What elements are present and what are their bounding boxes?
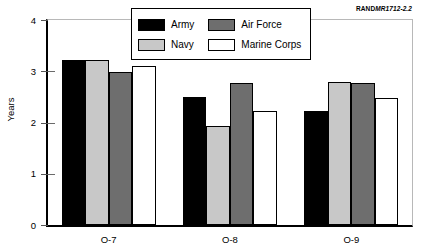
y-axis-tick: 4 <box>41 20 48 21</box>
y-axis-tick-label: 1 <box>31 168 36 179</box>
y-axis-tick: 0 <box>41 225 48 226</box>
bar-o-7-navy <box>85 60 109 225</box>
y-axis-tick-label: 4 <box>31 15 36 26</box>
legend-label-army: Army <box>165 19 208 30</box>
legend-swatch-cell-marine-corps <box>208 34 235 54</box>
y-axis-tick: 1 <box>41 174 48 175</box>
bar-o-8-air-force <box>230 83 254 225</box>
legend-label-cell-marine-corps: Marine Corps <box>235 34 303 54</box>
y-axis-tick-label: 3 <box>31 66 36 77</box>
legend-swatch-cell-army <box>138 14 165 34</box>
bar-o-7-marine-corps <box>132 66 156 225</box>
legend-swatch-air-force <box>208 19 235 31</box>
bar-o-9-navy <box>328 82 352 226</box>
legend-swatch-navy <box>138 39 165 51</box>
legend-label-navy: Navy <box>165 39 208 50</box>
y-axis-tick: 2 <box>41 123 48 124</box>
y-axis-tick-label: 0 <box>31 220 36 231</box>
legend-label-cell-navy: Navy <box>165 34 208 54</box>
bar-o-8-marine-corps <box>253 111 277 225</box>
bar-o-8-army <box>183 97 207 225</box>
x-axis-tick-label: O-8 <box>169 234 290 245</box>
bar-o-7-army <box>62 60 86 225</box>
chart-legend: Army Air Force Navy Marine Corps <box>131 8 311 60</box>
y-axis-label: Years <box>5 82 16 138</box>
chart-figure: RANDMR1712-2.2 Years 01234O-7O-8O-9 Army… <box>0 0 424 250</box>
legend-label-cell-army: Army <box>165 14 208 34</box>
y-axis-tick-label: 2 <box>31 117 36 128</box>
y-axis-tick: 3 <box>41 71 48 72</box>
x-axis-tick-label: O-7 <box>48 234 169 245</box>
legend-swatch-marine-corps <box>208 39 235 51</box>
bar-o-7-air-force <box>109 72 133 225</box>
bar-o-9-army <box>304 111 328 225</box>
legend-swatch-cell-air-force <box>208 14 235 34</box>
legend-swatch-cell-navy <box>138 34 165 54</box>
rand-logo-text: RAND <box>356 5 375 12</box>
legend-label-marine-corps: Marine Corps <box>235 39 303 50</box>
bar-o-9-marine-corps <box>375 98 399 225</box>
bar-o-9-air-force <box>351 83 375 225</box>
legend-label-air-force: Air Force <box>235 19 284 30</box>
x-axis-tick-label: O-9 <box>291 234 412 245</box>
legend-label-cell-air-force: Air Force <box>235 14 303 34</box>
rand-document-id: RANDMR1712-2.2 <box>356 5 412 12</box>
rand-report-number: MR1712-2.2 <box>375 5 412 12</box>
bar-o-8-navy <box>206 126 230 225</box>
legend-swatch-army <box>138 19 165 31</box>
